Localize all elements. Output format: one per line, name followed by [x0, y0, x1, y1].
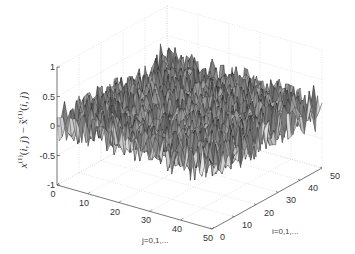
- svg-text:40: 40: [308, 183, 318, 193]
- surface-mesh: [57, 44, 322, 181]
- svg-text:-0.5: -0.5: [39, 151, 55, 161]
- z-axis-label: x(1)(i, j) − x̃(1)(i, j): [16, 91, 30, 169]
- surface-plot: -1-0.500.510102030405001020304050 j=0,1,…: [0, 0, 355, 254]
- svg-text:x(1)(i, j) − x̃(1)(i, j): x(1)(i, j) − x̃(1)(i, j): [16, 91, 30, 169]
- svg-text:10: 10: [79, 198, 89, 208]
- svg-text:0: 0: [50, 121, 55, 131]
- svg-text:30: 30: [141, 215, 151, 225]
- svg-text:50: 50: [330, 171, 340, 181]
- svg-text:0: 0: [50, 189, 55, 199]
- svg-text:30: 30: [286, 195, 296, 205]
- svg-text:10: 10: [242, 220, 252, 230]
- x-axis-label: j=0,1,...: [141, 236, 168, 245]
- svg-text:50: 50: [203, 233, 213, 243]
- svg-text:0: 0: [220, 232, 225, 242]
- svg-text:20: 20: [264, 208, 274, 218]
- svg-text:0.5: 0.5: [42, 92, 55, 102]
- svg-text:20: 20: [110, 207, 120, 217]
- svg-text:40: 40: [172, 224, 182, 234]
- svg-text:1: 1: [50, 62, 55, 72]
- y-axis-label: i=0,1,...: [272, 227, 298, 236]
